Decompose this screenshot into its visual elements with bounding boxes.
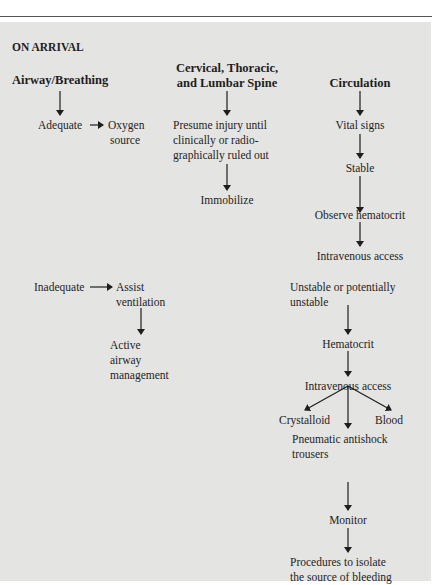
assist-label: Assist — [116, 280, 144, 295]
oxygen-label: Oxygen — [108, 118, 144, 133]
iv-access-1-label: Intravenous access — [300, 249, 420, 264]
presume-line2: clinically or radio- — [173, 133, 259, 148]
inadequate-label: Inadequate — [34, 280, 84, 295]
crystalloid-label: Crystalloid — [279, 413, 330, 428]
stable-label: Stable — [300, 161, 420, 176]
active-label: Active — [110, 338, 141, 353]
immobilize-label: Immobilize — [167, 193, 287, 208]
pneumatic-line1: Pneumatic antishock — [292, 432, 388, 447]
spine-header-line1: Cervical, Thoracic, — [157, 61, 297, 76]
adequate-label: Adequate — [38, 118, 82, 133]
presume-line3: graphically ruled out — [173, 148, 269, 163]
observe-hematocrit-label: Observe hematocrit — [300, 208, 420, 223]
spine-header-line2: and Lumbar Spine — [157, 76, 297, 91]
source-label: source — [110, 133, 140, 148]
monitor-label: Monitor — [288, 513, 408, 528]
procedures-line2: the source of bleeding — [290, 570, 392, 585]
unstable-line2: unstable — [290, 295, 328, 310]
section-title: ON ARRIVAL — [12, 40, 84, 55]
hematocrit-label: Hematocrit — [288, 337, 408, 352]
circulation-header: Circulation — [300, 76, 420, 91]
management-label: management — [110, 368, 169, 383]
airway-label: airway — [110, 353, 141, 368]
airway-header: Airway/Breathing — [12, 73, 108, 88]
pneumatic-line2: trousers — [292, 447, 328, 462]
vital-signs-label: Vital signs — [300, 118, 420, 133]
presume-line1: Presume injury until — [173, 118, 267, 133]
unstable-line1: Unstable or potentially — [290, 280, 395, 295]
blood-label: Blood — [375, 413, 403, 428]
ventilation-label: ventilation — [116, 295, 165, 310]
iv-access-2-label: Intravenous access — [288, 379, 408, 394]
procedures-line1: Procedures to isolate — [290, 555, 386, 570]
